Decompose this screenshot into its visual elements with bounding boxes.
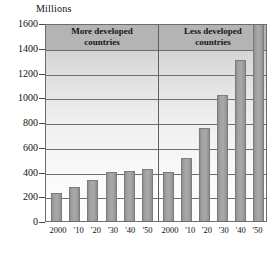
bar-group-more-developed xyxy=(47,25,157,221)
x-axis-tick-label: '20 xyxy=(202,224,212,240)
x-axis-tick-label: '20 xyxy=(91,224,101,240)
x-axis-tick-labels: 2000'10'20'30'40'50 2000'10'20'30'40'50 xyxy=(45,224,267,240)
bar xyxy=(199,128,210,221)
x-axis-tick-label: '50 xyxy=(252,224,262,240)
x-axis-labels-more-developed: 2000'10'20'30'40'50 xyxy=(46,224,156,240)
x-axis-tick-label: '50 xyxy=(142,224,152,240)
bar xyxy=(87,180,98,221)
bar xyxy=(69,187,80,221)
y-axis-tick-marks xyxy=(0,24,45,222)
population-projection-bar-chart: Millions 16001400120010008006004002000 M… xyxy=(0,0,273,254)
bar xyxy=(217,95,228,221)
x-axis-tick-label: 2000 xyxy=(161,224,178,240)
bar xyxy=(124,171,135,221)
bar xyxy=(181,158,192,221)
x-axis-tick-label: '30 xyxy=(219,224,229,240)
x-axis-tick-label: '10 xyxy=(74,224,84,240)
x-axis-tick-label: '40 xyxy=(125,224,135,240)
x-axis-tick-label: '30 xyxy=(108,224,118,240)
x-axis-tick-label: 2000 xyxy=(50,224,67,240)
bar xyxy=(106,172,117,221)
bar xyxy=(163,172,174,222)
plot-area: More developed countries Less developed … xyxy=(45,24,267,222)
y-axis-units-label: Millions xyxy=(36,3,72,14)
bar-group-less-developed xyxy=(159,25,267,221)
bar xyxy=(51,193,62,221)
y-axis-tick-mark xyxy=(39,222,45,223)
bar xyxy=(253,24,264,221)
bar xyxy=(235,60,246,221)
x-axis-tick-label: '40 xyxy=(236,224,246,240)
x-axis-tick-label: '10 xyxy=(185,224,195,240)
x-axis-labels-less-developed: 2000'10'20'30'40'50 xyxy=(158,224,266,240)
bar xyxy=(142,169,153,221)
